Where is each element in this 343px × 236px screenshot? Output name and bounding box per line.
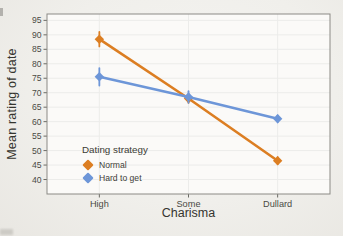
y-tick-label: 75 xyxy=(32,73,42,83)
x-axis-title: Charisma xyxy=(47,206,330,220)
y-tick-label: 55 xyxy=(32,131,42,141)
legend-title: Dating strategy xyxy=(82,144,148,155)
y-tick-label: 90 xyxy=(32,30,42,40)
y-tick-label: 95 xyxy=(32,15,42,25)
legend-item-label: Hard to get xyxy=(99,173,142,183)
y-tick-label: 40 xyxy=(32,175,42,185)
y-tick-label: 70 xyxy=(32,88,42,98)
scan-artifact xyxy=(0,229,13,235)
y-tick-label: 45 xyxy=(32,160,42,170)
y-tick-label: 60 xyxy=(32,117,42,127)
figure: 404550556065707580859095HighSomeDullard … xyxy=(0,0,343,236)
chart-svg: 404550556065707580859095HighSomeDullard xyxy=(0,0,343,236)
y-tick-label: 80 xyxy=(32,59,42,69)
y-axis-title: Mean rating of date xyxy=(5,4,21,204)
legend-item: Normal xyxy=(82,158,148,171)
legend-items: NormalHard to get xyxy=(82,158,148,184)
legend-marker-diamond-icon xyxy=(82,172,93,183)
scan-artifact xyxy=(0,8,3,16)
legend-item-label: Normal xyxy=(99,160,127,170)
legend: Dating strategy NormalHard to get xyxy=(82,144,148,184)
y-tick-label: 85 xyxy=(32,44,42,54)
legend-marker-diamond-icon xyxy=(82,159,93,170)
y-tick-label: 50 xyxy=(32,146,42,156)
y-tick-label: 65 xyxy=(32,102,42,112)
legend-item: Hard to get xyxy=(82,171,148,184)
